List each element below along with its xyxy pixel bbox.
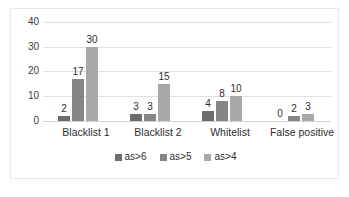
y-tick-label-0: 0 [13,116,39,126]
bar-blacklist-2-as-gt-5[interactable] [144,114,156,121]
legend-label-as-gt-4: as>4 [214,152,236,162]
bar-value-blacklist-1-as-gt-6: 2 [52,104,76,114]
chart-container: 40 30 20 10 0 2 17 30 [10,8,339,179]
gridline-0 [43,121,331,122]
bar-blacklist-2-as-gt-6[interactable] [130,114,142,121]
chart-legend: as>6 as>5 as>4 [11,152,340,162]
bar-whitelist-as-gt-4[interactable] [230,96,242,121]
plot-area: 2 17 30 3 3 15 [43,22,331,121]
legend-item-as-gt-5[interactable]: as>5 [160,152,192,162]
legend-swatch-icon-as-gt-5 [160,154,167,161]
legend-label-as-gt-6: as>6 [125,152,147,162]
bar-group-bars: 3 3 15 [115,22,187,121]
bar-group-bars: 4 8 10 [187,22,259,121]
y-tick-label-20: 20 [13,66,39,76]
bar-group-bars: 2 17 30 [43,22,115,121]
y-tick-label-30: 30 [13,42,39,52]
bar-group-blacklist-2: 3 3 15 [115,22,187,121]
bar-group-bars: 0 2 3 [259,22,331,121]
bar-value-blacklist-2-as-gt-5: 3 [138,102,162,112]
legend-item-as-gt-6[interactable]: as>6 [115,152,147,162]
bar-group-blacklist-1: 2 17 30 [43,22,115,121]
bar-group-whitelist: 4 8 10 [187,22,259,121]
bar-blacklist-1-as-gt-6[interactable] [58,116,70,121]
bar-value-blacklist-1-as-gt-4: 30 [80,35,104,45]
y-tick-label-10: 10 [13,91,39,101]
legend-swatch-icon-as-gt-6 [115,154,122,161]
bar-value-false-positive-as-gt-4: 3 [296,102,320,112]
plot-wrap: 40 30 20 10 0 2 17 30 [11,9,340,180]
legend-swatch-icon-as-gt-4 [204,154,211,161]
bar-value-whitelist-as-gt-4: 10 [224,84,248,94]
bar-value-blacklist-2-as-gt-4: 15 [152,72,176,82]
bar-value-whitelist-as-gt-6: 4 [196,99,220,109]
legend-label-as-gt-5: as>5 [170,152,192,162]
bar-group-false-positive: 0 2 3 [259,22,331,121]
bar-false-positive-as-gt-4[interactable] [302,114,314,121]
x-tick-label-false-positive: False positive [259,126,345,138]
bar-value-blacklist-1-as-gt-5: 17 [66,67,90,77]
legend-item-as-gt-4[interactable]: as>4 [204,152,236,162]
bar-whitelist-as-gt-6[interactable] [202,111,214,121]
y-tick-label-40: 40 [13,17,39,27]
bar-blacklist-1-as-gt-4[interactable] [86,47,98,121]
bar-blacklist-1-as-gt-5[interactable] [72,79,84,121]
